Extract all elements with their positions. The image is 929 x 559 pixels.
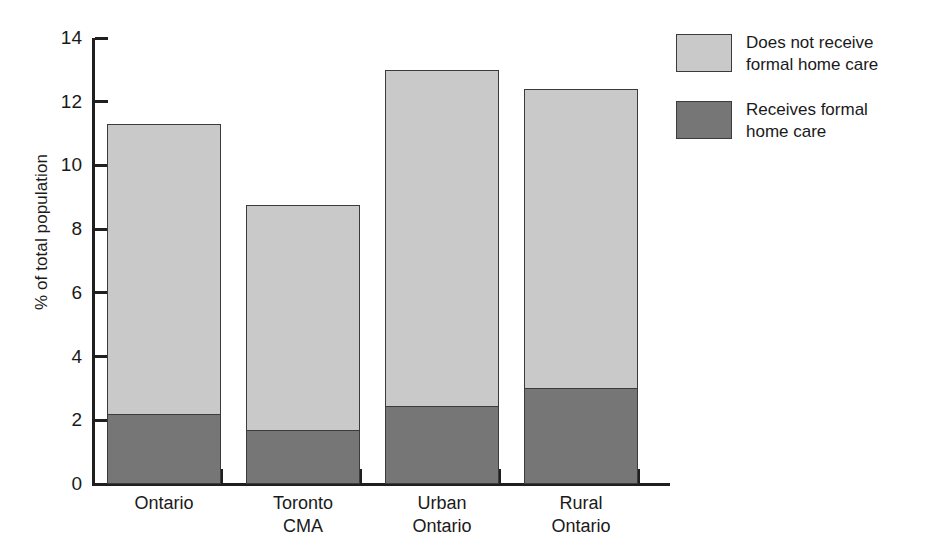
x-axis-label-rural-ontario: Rural Ontario <box>508 492 654 538</box>
legend-swatch-does-not-receive-icon <box>676 34 732 72</box>
chart-legend: Does not receive formal home care Receiv… <box>676 32 926 166</box>
x-axis-label-toronto-cma: Toronto CMA <box>230 492 376 538</box>
legend-item-receives: Receives formal home care <box>676 99 926 144</box>
y-axis-tick-label: 12 <box>38 92 82 111</box>
y-axis-tick <box>95 37 108 40</box>
legend-swatch-receives-icon <box>676 101 732 139</box>
y-axis-tick-label: 10 <box>38 155 82 174</box>
bar-toronto-cma <box>246 205 360 484</box>
y-axis-tick-label: 4 <box>38 347 82 366</box>
bar-segment-receives <box>246 430 360 484</box>
x-axis-label-ontario: Ontario <box>91 492 237 515</box>
legend-label-does-not-receive: Does not receive formal home care <box>746 32 878 77</box>
bar-segment-receives <box>524 388 638 484</box>
bar-segment-does-not-receive <box>524 89 638 390</box>
x-axis-label-urban-ontario: Urban Ontario <box>369 492 515 538</box>
y-axis-tick-label: 8 <box>38 219 82 238</box>
bar-segment-does-not-receive <box>385 70 499 408</box>
y-axis-tick-label: 2 <box>38 410 82 429</box>
legend-item-does-not-receive: Does not receive formal home care <box>676 32 926 77</box>
bar-segment-does-not-receive <box>107 124 221 415</box>
y-axis-tick-label: 14 <box>38 28 82 47</box>
bar-segment-receives <box>107 414 221 484</box>
legend-label-receives: Receives formal home care <box>746 99 868 144</box>
bar-segment-receives <box>385 406 499 484</box>
bar-rural-ontario <box>524 89 638 484</box>
stacked-bar-chart: % of total population 02468101214 Ontari… <box>0 0 929 559</box>
bar-ontario <box>107 124 221 484</box>
y-axis-tick-label: 6 <box>38 283 82 302</box>
y-axis-tick <box>95 100 108 103</box>
y-axis-tick-label: 0 <box>38 474 82 493</box>
bar-urban-ontario <box>385 70 499 484</box>
bar-segment-does-not-receive <box>246 205 360 431</box>
